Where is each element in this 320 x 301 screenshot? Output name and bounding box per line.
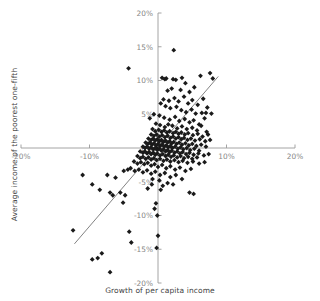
data-point bbox=[149, 171, 154, 176]
data-point bbox=[190, 125, 195, 130]
data-point bbox=[121, 200, 126, 205]
data-point bbox=[90, 182, 95, 187]
data-point bbox=[185, 160, 190, 165]
data-point bbox=[167, 98, 172, 103]
data-point bbox=[190, 98, 195, 103]
data-point bbox=[180, 124, 185, 129]
data-point bbox=[183, 81, 188, 86]
data-point bbox=[199, 111, 204, 116]
data-point bbox=[166, 122, 171, 127]
data-point bbox=[189, 107, 194, 112]
data-point bbox=[162, 115, 167, 120]
data-point bbox=[195, 131, 200, 136]
data-point bbox=[202, 160, 207, 165]
data-point bbox=[127, 229, 132, 234]
data-point bbox=[163, 104, 168, 109]
data-point bbox=[199, 142, 204, 147]
data-point bbox=[126, 66, 131, 71]
data-point bbox=[158, 101, 163, 106]
data-point bbox=[105, 173, 110, 178]
data-point bbox=[113, 175, 118, 180]
data-point bbox=[187, 190, 192, 195]
data-point bbox=[158, 187, 163, 192]
data-point bbox=[173, 167, 178, 172]
data-point bbox=[184, 127, 189, 132]
data-point bbox=[182, 94, 187, 99]
data-point bbox=[132, 169, 137, 174]
y-axis-tick-label: 20% bbox=[137, 9, 153, 18]
x-axis-tick-label: -10% bbox=[80, 152, 99, 161]
data-point bbox=[168, 106, 173, 111]
data-point bbox=[195, 155, 200, 160]
y-axis-tick-label: -10% bbox=[134, 211, 153, 220]
x-axis-tick-label: 20% bbox=[287, 152, 303, 161]
data-point bbox=[176, 99, 181, 104]
data-point bbox=[172, 96, 177, 101]
data-point bbox=[184, 110, 189, 115]
data-point bbox=[171, 182, 176, 187]
data-point bbox=[188, 167, 193, 172]
data-point bbox=[187, 90, 192, 95]
data-point bbox=[197, 161, 202, 166]
data-point bbox=[191, 192, 196, 197]
data-point bbox=[176, 160, 181, 165]
data-point bbox=[167, 117, 172, 122]
data-point bbox=[178, 165, 183, 170]
y-axis-tick-label: -15% bbox=[134, 245, 153, 254]
data-point bbox=[95, 256, 100, 261]
data-point bbox=[192, 85, 197, 90]
data-point bbox=[164, 166, 169, 171]
data-point bbox=[178, 88, 183, 93]
data-point bbox=[193, 138, 198, 143]
data-point bbox=[168, 164, 173, 169]
data-point bbox=[198, 73, 203, 78]
data-point bbox=[193, 111, 198, 116]
data-point bbox=[206, 152, 211, 157]
data-point bbox=[155, 213, 160, 218]
data-point bbox=[179, 108, 184, 113]
x-axis-tick-label: 10% bbox=[218, 152, 234, 161]
data-point bbox=[169, 86, 174, 91]
data-point bbox=[99, 251, 104, 256]
data-point bbox=[203, 139, 208, 144]
data-point bbox=[162, 171, 167, 176]
data-point bbox=[121, 169, 126, 174]
data-point bbox=[108, 270, 113, 275]
data-point bbox=[173, 115, 178, 120]
y-axis-tick-label: 15% bbox=[137, 43, 153, 52]
data-point bbox=[156, 165, 161, 170]
data-point bbox=[201, 153, 206, 158]
data-point bbox=[205, 105, 210, 110]
data-point bbox=[174, 104, 179, 109]
data-point bbox=[71, 228, 76, 233]
y-axis-tick-label: 10% bbox=[137, 76, 153, 85]
x-axis-title: Growth of per capita income bbox=[0, 286, 320, 295]
data-point bbox=[204, 111, 209, 116]
data-point bbox=[187, 120, 192, 125]
data-point bbox=[180, 177, 185, 182]
data-point bbox=[173, 173, 178, 178]
data-point bbox=[145, 168, 150, 173]
data-point bbox=[202, 116, 207, 121]
data-point bbox=[208, 71, 213, 76]
data-point bbox=[97, 187, 102, 192]
data-point bbox=[80, 173, 85, 178]
data-point bbox=[209, 111, 214, 116]
data-point bbox=[168, 175, 173, 180]
data-point bbox=[118, 190, 123, 195]
y-axis-title: Average income of the poorest one-fifth bbox=[10, 45, 19, 245]
data-point bbox=[180, 75, 185, 80]
data-point bbox=[165, 181, 170, 186]
data-point bbox=[141, 170, 146, 175]
data-point bbox=[191, 152, 196, 157]
data-point bbox=[160, 183, 165, 188]
data-point bbox=[160, 162, 165, 167]
data-point bbox=[90, 257, 95, 262]
data-point bbox=[208, 138, 213, 143]
data-point bbox=[123, 193, 128, 198]
data-point bbox=[186, 101, 191, 106]
data-point bbox=[191, 118, 196, 123]
data-point bbox=[183, 169, 188, 174]
data-point bbox=[171, 48, 176, 53]
data-point bbox=[195, 102, 200, 107]
